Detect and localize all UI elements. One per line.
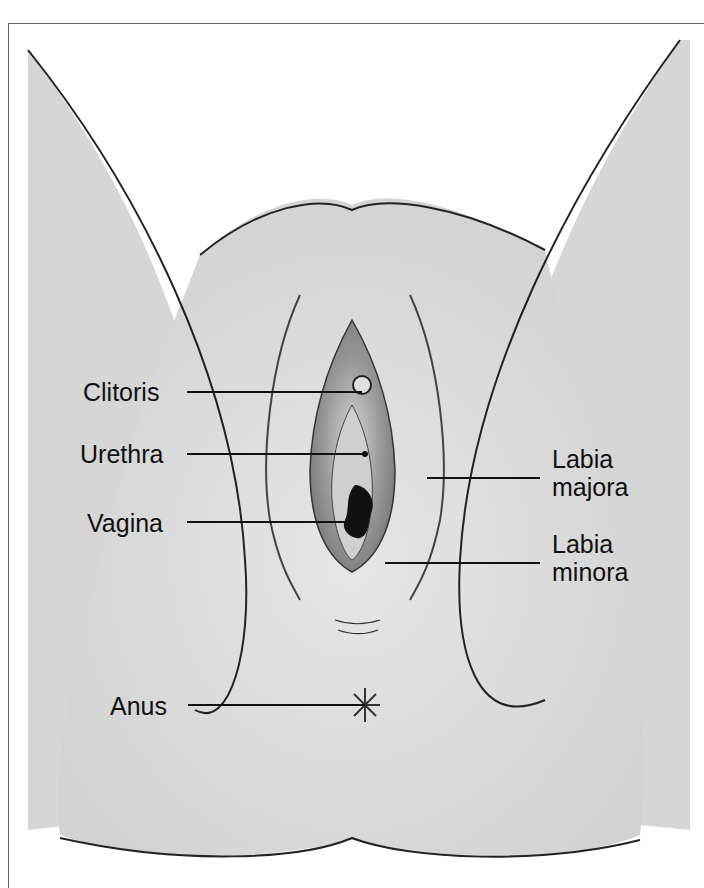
label-labia-majora: Labia majora <box>552 445 628 501</box>
label-labia-minora: Labia minora <box>552 530 628 586</box>
label-clitoris: Clitoris <box>83 378 159 406</box>
label-vagina: Vagina <box>87 509 163 537</box>
label-anus: Anus <box>110 692 167 720</box>
label-urethra: Urethra <box>80 440 163 468</box>
